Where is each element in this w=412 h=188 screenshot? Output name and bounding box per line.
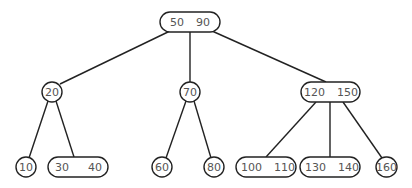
leaf-130-140: 130 140 (300, 157, 360, 177)
leaf-10: 10 (16, 157, 36, 177)
node-70: 70 (180, 82, 200, 102)
node-key: 60 (155, 161, 169, 174)
node-key: 50 (170, 16, 184, 29)
edge-120-150-100-110 (266, 102, 316, 157)
leaf-80: 80 (204, 157, 224, 177)
edge-120-150-160 (343, 102, 382, 158)
node-key: 20 (45, 86, 59, 99)
leaf-100-110: 100 110 (236, 157, 296, 177)
edge-70-60 (166, 101, 186, 158)
tree-diagram: 50 90 20 70 120 150 10 30 40 60 80 100 1… (0, 0, 412, 188)
edge-20-30-40 (56, 101, 74, 157)
node-key: 80 (207, 161, 221, 174)
edge-20-10 (29, 101, 48, 158)
node-key: 150 (337, 86, 358, 99)
node-root: 50 90 (160, 12, 220, 32)
node-120-150: 120 150 (301, 82, 360, 102)
node-key: 130 (305, 161, 326, 174)
node-key: 160 (376, 161, 397, 174)
edge-70-80 (194, 101, 211, 158)
edge-root-20 (60, 31, 170, 84)
node-key: 90 (196, 16, 210, 29)
leaf-160: 160 (376, 157, 397, 177)
node-key: 40 (88, 161, 102, 174)
node-key: 30 (55, 161, 69, 174)
leaf-30-40: 30 40 (48, 157, 108, 177)
node-key: 100 (241, 161, 262, 174)
leaf-60: 60 (152, 157, 172, 177)
node-key: 110 (274, 161, 295, 174)
edge-root-120-150 (212, 31, 326, 82)
node-20: 20 (42, 82, 62, 102)
node-key: 10 (19, 161, 33, 174)
node-key: 70 (183, 86, 197, 99)
node-key: 140 (338, 161, 359, 174)
node-key: 120 (304, 86, 325, 99)
